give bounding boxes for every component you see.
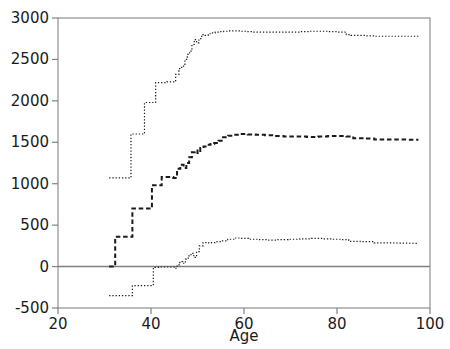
data-series-group [109,31,418,296]
y-tick-label: 2500 [11,50,49,68]
series-line-point-estimate [109,134,418,267]
y-tick-label: 3000 [11,9,49,27]
series-line-upper-confidence-band [109,31,418,178]
x-tick-label: 20 [48,315,67,333]
x-tick-label: 100 [416,315,445,333]
y-tick-label: 1500 [11,133,49,151]
y-axis: -500050010001500200025003000 [11,9,58,317]
x-tick-label: 80 [327,315,346,333]
y-tick-label: 2000 [11,92,49,110]
y-tick-label: 0 [39,258,49,276]
x-axis-title: Age [229,327,258,345]
chart-container: -500050010001500200025003000 20406080100… [0,0,450,349]
y-tick-label: 500 [20,216,49,234]
plot-frame [58,18,430,308]
plot-border [58,18,430,308]
line-chart: -500050010001500200025003000 20406080100… [0,0,450,349]
y-tick-label: -500 [15,299,49,317]
y-tick-label: 1000 [11,175,49,193]
x-tick-label: 40 [141,315,160,333]
